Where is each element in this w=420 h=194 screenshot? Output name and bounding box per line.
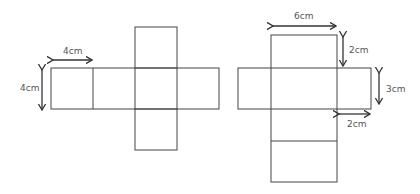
cube-net-top-face	[135, 27, 177, 68]
cube-net: 4cm 4cm	[20, 27, 219, 150]
cube-width-label: 4cm	[63, 46, 82, 56]
cube-net-bottom-face	[135, 109, 177, 150]
cuboid-depth-side-label: 2cm	[347, 119, 366, 129]
cuboid-net-row	[238, 68, 371, 109]
cube-height-label: 4cm	[20, 83, 39, 93]
nets-diagram: 4cm 4cm 6cm 2cm 3cm 2cm	[0, 0, 420, 194]
cuboid-length-label: 6cm	[294, 11, 313, 21]
cuboid-net: 6cm 2cm 3cm 2cm	[238, 11, 405, 182]
cuboid-depth-top-label: 2cm	[349, 45, 368, 55]
cuboid-height-label: 3cm	[386, 84, 405, 94]
